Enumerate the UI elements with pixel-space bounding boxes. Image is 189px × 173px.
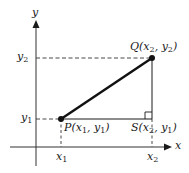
s-close: ) (172, 121, 176, 134)
tick-label-x2: x2 (147, 151, 158, 164)
point-q (149, 55, 155, 61)
y-axis-label: y (32, 7, 38, 18)
tick-label-y1: y1 (21, 112, 32, 125)
coordinate-diagram: y x y2 y1 x1 x2 Q(x2, y2) P(x1, y1) S(x2… (0, 0, 189, 173)
tick-y2-sub: 2 (23, 55, 28, 64)
segment-pq (61, 58, 152, 119)
p-name: P( (64, 121, 76, 134)
y-axis-arrow-icon (33, 20, 40, 28)
x-axis-arrow-icon (164, 144, 172, 151)
p-close: ) (105, 121, 109, 134)
tick-y1-sub: 1 (27, 116, 32, 125)
diagram-svg (0, 0, 189, 173)
q-close: ) (173, 40, 177, 53)
x-axis-label: x (175, 140, 181, 151)
tick-x1-sub: 1 (62, 155, 67, 164)
p-sep: , (87, 121, 94, 134)
tick-x2-sub: 2 (153, 155, 158, 164)
q-name: Q( (130, 40, 143, 53)
s-name: S( (131, 121, 143, 134)
q-sep: , (155, 40, 162, 53)
tick-label-x1: x1 (56, 151, 67, 164)
right-angle-marker (145, 112, 152, 119)
point-s-label: S(x2, y1) (131, 122, 177, 135)
tick-label-y2: y2 (17, 51, 28, 64)
point-q-label: Q(x2, y2) (130, 41, 177, 54)
point-p-label: P(x1, y1) (64, 122, 110, 135)
